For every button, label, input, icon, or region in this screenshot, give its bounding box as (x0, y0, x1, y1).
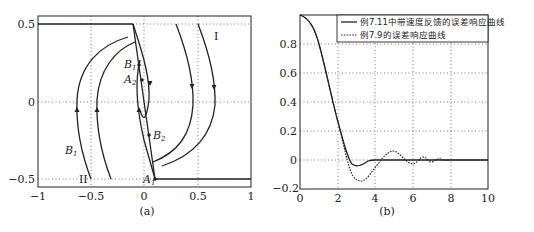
a-xtick-4: 1 (248, 190, 255, 203)
region-ii-label: II (79, 173, 88, 186)
label-b1-top: B1 (123, 58, 137, 72)
direction-arrows (75, 81, 217, 112)
a-xtick-0: −1 (30, 190, 46, 203)
point-b2 (147, 133, 151, 137)
panel-a: B1 A2 B2 A1 B1 I II 0.5 0 −0.5 −1 −0.5 0… (8, 16, 254, 218)
point-b1 (137, 63, 141, 67)
b-xtick-2: 4 (372, 192, 379, 205)
a-ytick-1: 0 (28, 96, 35, 109)
b-ytick-1: 0.6 (280, 67, 298, 80)
legend-item-1: 例7.11中带速度反馈的误差响应曲线 (360, 17, 505, 27)
a-ytick-2: −0.5 (8, 173, 35, 186)
b-xtick-1: 2 (335, 192, 342, 205)
region-i-label: I (214, 30, 218, 43)
label-b1-left: B1 (64, 144, 78, 158)
b-ytick-3: 0.2 (280, 125, 298, 138)
b-ytick-5: −0.2 (272, 182, 299, 195)
trajectory-right-2 (162, 24, 215, 166)
legend-item-2: 例7.9的误差响应曲线 (360, 30, 446, 40)
legend: 例7.11中带速度反馈的误差响应曲线 例7.9的误差响应曲线 (337, 15, 505, 42)
b-xtick-0: 0 (297, 192, 304, 205)
switching-line (133, 24, 155, 179)
b-xtick-4: 8 (448, 192, 455, 205)
caption-b: (b) (379, 205, 395, 218)
label-a2: A2 (123, 73, 137, 87)
point-a2 (140, 78, 144, 82)
a-xtick-1: −0.5 (78, 190, 105, 203)
a-xtick-3: 0.5 (189, 190, 207, 203)
label-b2: B2 (152, 129, 166, 143)
b-ytick-2: 0.4 (280, 96, 298, 109)
b-ytick-4: 0 (290, 154, 297, 167)
trajectory-left-1 (77, 37, 128, 179)
b-xtick-3: 6 (410, 192, 417, 205)
caption-a: (a) (139, 205, 154, 218)
panel-b: 例7.11中带速度反馈的误差响应曲线 例7.9的误差响应曲线 0.8 0.6 0… (272, 15, 505, 218)
a-ytick-0: 0.5 (18, 18, 36, 31)
a-xtick-2: 0 (141, 190, 148, 203)
b-xtick-5: 10 (481, 192, 495, 205)
b-ytick-0: 0.8 (280, 38, 298, 51)
figure: B1 A2 B2 A1 B1 I II 0.5 0 −0.5 −1 −0.5 0… (0, 0, 534, 232)
